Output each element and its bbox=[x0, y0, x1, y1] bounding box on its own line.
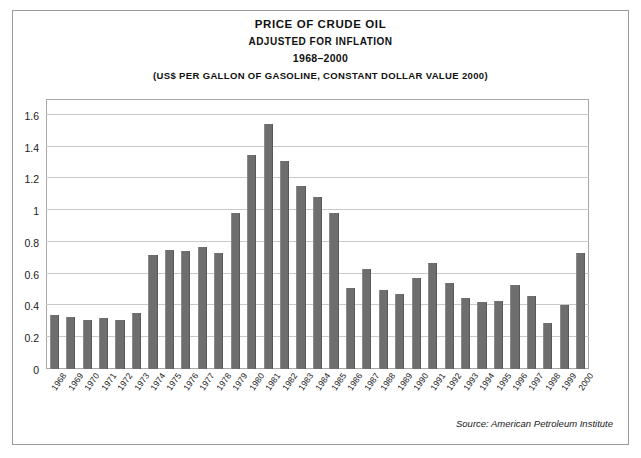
x-axis-tick-label: 1976 bbox=[181, 371, 200, 392]
x-axis-tick-label: 1999 bbox=[559, 371, 578, 392]
bar-2000 bbox=[576, 253, 585, 369]
x-axis-tick-label: 1997 bbox=[527, 371, 546, 392]
bar-1988 bbox=[379, 290, 388, 369]
figure-subtitle: Adjusted for Inflation bbox=[0, 36, 641, 47]
y-axis-tick-label: 1 bbox=[33, 205, 39, 217]
y-axis-tick-label: 0 bbox=[33, 364, 39, 376]
page-title: Price of Crude Oil bbox=[0, 18, 641, 30]
x-axis-tick-label: 1987 bbox=[362, 371, 381, 392]
y-axis-tick-label: 0.8 bbox=[24, 237, 39, 249]
x-axis-tick-label: 1991 bbox=[428, 371, 447, 392]
x-axis-tick-label: 1974 bbox=[148, 371, 167, 392]
bar-1969 bbox=[66, 317, 75, 369]
y-axis-tick-label: 0.4 bbox=[24, 300, 39, 312]
bar-1978 bbox=[214, 253, 223, 369]
bar-1996 bbox=[510, 285, 519, 369]
x-axis-tick-label: 1982 bbox=[280, 371, 299, 392]
bar-1994 bbox=[477, 302, 486, 369]
x-axis-tick-label: 1985 bbox=[329, 371, 348, 392]
x-axis-tick-label: 1979 bbox=[230, 371, 249, 392]
bar-1971 bbox=[99, 318, 108, 369]
plot-wrapper bbox=[46, 99, 589, 369]
x-axis-tick-label: 1972 bbox=[115, 371, 134, 392]
bar-1998 bbox=[543, 323, 552, 369]
x-axis-tick-label: 1977 bbox=[197, 371, 216, 392]
x-axis-tick-label: 1994 bbox=[477, 371, 496, 392]
bar-1968 bbox=[50, 315, 59, 369]
bar-1993 bbox=[461, 298, 470, 369]
bar-1987 bbox=[362, 269, 371, 369]
bar-1992 bbox=[445, 283, 454, 369]
x-axis-tick-label: 1988 bbox=[378, 371, 397, 392]
bar-1985 bbox=[329, 213, 338, 369]
figure-units-note: (US$ per gallon of gasoline, constant do… bbox=[0, 70, 641, 81]
x-axis: 1968196919701971197219731974197519761977… bbox=[46, 371, 589, 417]
x-axis-tick-label: 1986 bbox=[346, 371, 365, 392]
x-axis-tick-label: 1969 bbox=[66, 371, 85, 392]
bar-1991 bbox=[428, 263, 437, 369]
x-axis-tick-label: 1975 bbox=[165, 371, 184, 392]
bar-1983 bbox=[296, 186, 305, 369]
figure-year-range: 1968–2000 bbox=[0, 52, 641, 64]
y-axis-tick-label: 0.2 bbox=[24, 332, 39, 344]
x-axis-tick-label: 1989 bbox=[395, 371, 414, 392]
bar-series bbox=[46, 99, 589, 369]
x-axis-tick-label: 1978 bbox=[214, 371, 233, 392]
chart-page: Price of Crude Oil Adjusted for Inflatio… bbox=[0, 0, 641, 458]
source-note: Source: American Petroleum Institute bbox=[456, 418, 613, 429]
y-axis-tick-label: 1.4 bbox=[24, 142, 39, 154]
x-axis-tick-label: 1992 bbox=[444, 371, 463, 392]
x-axis-tick-label: 1968 bbox=[49, 371, 68, 392]
bar-1975 bbox=[165, 250, 174, 369]
x-axis-tick-label: 1971 bbox=[99, 371, 118, 392]
x-axis-tick-label: 1990 bbox=[411, 371, 430, 392]
bar-1972 bbox=[115, 320, 124, 369]
bar-1990 bbox=[412, 278, 421, 369]
bar-1984 bbox=[313, 197, 322, 369]
bar-1999 bbox=[560, 305, 569, 369]
x-axis-tick-label: 1984 bbox=[313, 371, 332, 392]
y-axis-tick-label: 0.6 bbox=[24, 269, 39, 281]
x-axis-tick-label: 1995 bbox=[494, 371, 513, 392]
bar-1974 bbox=[148, 255, 157, 369]
figure-title-block: Price of Crude Oil Adjusted for Inflatio… bbox=[0, 18, 641, 81]
bar-1997 bbox=[527, 296, 536, 369]
bar-1981 bbox=[264, 124, 273, 369]
y-axis: 0.20.40.60.811.21.41.60 bbox=[0, 99, 44, 371]
bar-1982 bbox=[280, 161, 289, 369]
y-axis-tick-label: 1.2 bbox=[24, 173, 39, 185]
bar-1973 bbox=[132, 313, 141, 369]
y-axis-tick-label: 1.6 bbox=[24, 110, 39, 122]
x-axis-tick-label: 1983 bbox=[296, 371, 315, 392]
bar-1976 bbox=[181, 251, 190, 369]
x-axis-tick-label: 1996 bbox=[510, 371, 529, 392]
x-axis-tick-label: 1998 bbox=[543, 371, 562, 392]
x-axis-tick-label: 1970 bbox=[82, 371, 101, 392]
x-axis-tick-label: 1993 bbox=[461, 371, 480, 392]
bar-1980 bbox=[247, 155, 256, 369]
bar-1977 bbox=[198, 247, 207, 369]
bar-1989 bbox=[395, 294, 404, 369]
x-axis-tick-label: 1973 bbox=[132, 371, 151, 392]
bar-1986 bbox=[346, 288, 355, 369]
x-axis-tick-label: 1981 bbox=[263, 371, 282, 392]
x-axis-tick-label: 1980 bbox=[247, 371, 266, 392]
bar-1970 bbox=[83, 320, 92, 369]
bar-1979 bbox=[231, 213, 240, 369]
bar-1995 bbox=[494, 301, 503, 369]
